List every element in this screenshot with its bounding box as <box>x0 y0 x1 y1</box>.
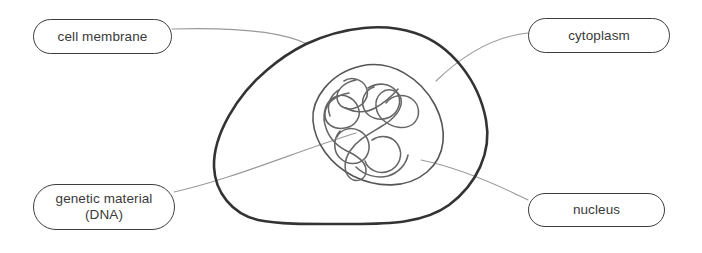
leader-line-nucleus <box>421 160 528 200</box>
label-nucleus[interactable]: nucleus <box>528 193 665 227</box>
label-cytoplasm[interactable]: cytoplasm <box>528 18 670 53</box>
leader-line-cell-membrane <box>172 29 307 44</box>
label-genetic-material-dna[interactable]: genetic material (DNA) <box>33 184 175 230</box>
leader-line-cytoplasm <box>436 33 528 81</box>
leader-line-genetic-material <box>174 133 356 192</box>
cell-diagram: cell membrane cytoplasm genetic material… <box>0 0 702 253</box>
genetic-material-dna <box>324 79 418 181</box>
nucleus-outline <box>313 65 443 185</box>
label-cell-membrane[interactable]: cell membrane <box>33 19 172 54</box>
